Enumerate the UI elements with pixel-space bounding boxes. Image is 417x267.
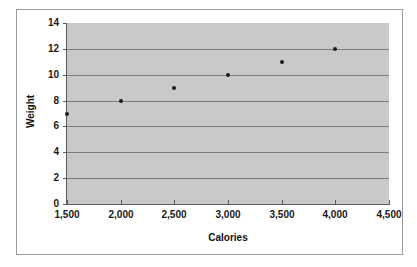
y-tick-label-4: 4 <box>29 147 59 157</box>
x-tick-label-1500: 1,500 <box>37 210 97 220</box>
x-tick-label-2500: 2,500 <box>144 210 204 220</box>
x-tick-4000 <box>335 200 336 205</box>
y-tick-label-0: 0 <box>29 199 59 209</box>
y-tick-6 <box>63 126 67 127</box>
y-tick-label-10: 10 <box>29 70 59 80</box>
data-point <box>119 99 123 103</box>
x-tick-3500 <box>282 200 283 205</box>
x-tick-label-2000: 2,000 <box>91 210 151 220</box>
gridline-y-6 <box>67 126 389 127</box>
data-point <box>65 112 69 116</box>
x-tick-2500 <box>174 200 175 205</box>
x-tick-label-3000: 3,000 <box>198 210 258 220</box>
y-tick-label-14: 14 <box>29 18 59 28</box>
y-tick-14 <box>63 23 67 24</box>
gridline-y-4 <box>67 152 389 153</box>
plot-area <box>67 23 389 204</box>
y-tick-4 <box>63 152 67 153</box>
x-tick-label-3500: 3,500 <box>252 210 312 220</box>
y-tick-12 <box>63 49 67 50</box>
y-tick-2 <box>63 178 67 179</box>
gridline-y-2 <box>67 178 389 179</box>
x-tick-3000 <box>228 200 229 205</box>
y-axis-title: Weight <box>25 82 36 142</box>
x-tick-2000 <box>121 200 122 205</box>
gridline-y-8 <box>67 101 389 102</box>
x-axis-title: Calories <box>67 232 389 243</box>
gridline-y-12 <box>67 49 389 50</box>
x-tick-label-4500: 4,500 <box>359 210 417 220</box>
chart-frame: 024681012141,5002,0002,5003,0003,5004,00… <box>16 9 403 255</box>
x-tick-4500 <box>389 200 390 205</box>
x-tick-label-4000: 4,000 <box>305 210 365 220</box>
y-tick-10 <box>63 75 67 76</box>
x-tick-1500 <box>67 200 68 205</box>
y-tick-label-12: 12 <box>29 44 59 54</box>
y-tick-label-2: 2 <box>29 173 59 183</box>
data-point <box>280 60 284 64</box>
data-point <box>226 73 230 77</box>
y-tick-8 <box>63 101 67 102</box>
